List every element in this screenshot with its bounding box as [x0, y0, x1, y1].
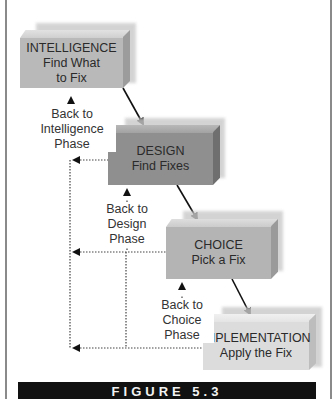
intelligence-top-face	[20, 30, 130, 38]
feedback-label-intelligence: Back to Intelligence Phase	[28, 107, 116, 152]
phase-box-design: DESIGN Find Fixes	[108, 133, 213, 185]
phase-subtitle: Find What	[43, 56, 100, 71]
phase-box-intelligence: INTELLIGENCE Find What to Fix	[20, 38, 123, 88]
phase-title: DESIGN	[137, 144, 185, 159]
label-line: Phase	[150, 328, 214, 343]
phase-subtitle: Find Fixes	[132, 159, 190, 174]
implementation-top-face	[203, 314, 316, 322]
choice-top-face	[166, 219, 278, 227]
phase-box-choice: CHOICE Pick a Fix	[166, 227, 271, 279]
choice-side-face	[271, 219, 278, 279]
phase-subtitle: Apply the Fix	[220, 346, 292, 361]
figure-caption: FIGURE 5.3	[18, 382, 316, 399]
phase-subtitle: Pick a Fix	[191, 253, 245, 268]
label-line: Back to	[150, 298, 214, 313]
phase-title: IMPLEMENTATION	[201, 331, 310, 346]
feedback-label-choice: Back to Choice Phase	[150, 298, 214, 343]
label-line: Intelligence	[28, 122, 116, 137]
label-line: Phase	[28, 137, 116, 152]
phase-box-implementation: IMPLEMENTATION Apply the Fix	[203, 322, 309, 370]
feedback-label-design: Back to Design Phase	[92, 202, 162, 247]
phase-title: CHOICE	[194, 238, 243, 253]
label-line: Phase	[92, 232, 162, 247]
intelligence-side-face	[123, 30, 130, 88]
label-line: Back to	[92, 202, 162, 217]
label-line: Design	[92, 217, 162, 232]
phase-subtitle: to Fix	[56, 71, 87, 86]
design-side-face	[213, 125, 220, 185]
label-line: Back to	[28, 107, 116, 122]
design-top-face	[108, 125, 220, 133]
phase-title: INTELLIGENCE	[26, 41, 116, 56]
label-line: Choice	[150, 313, 214, 328]
